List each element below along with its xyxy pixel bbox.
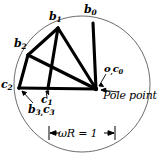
label-b3-c3: b3,c3: [28, 104, 54, 115]
dim-arrow-left: [50, 131, 56, 136]
label-b0: b0: [84, 4, 97, 15]
joint-pole: [94, 87, 98, 91]
leader-o-c0-arrowhead: [99, 83, 104, 87]
label-b2: b2: [14, 38, 27, 49]
bar-b0-pole: [93, 23, 96, 89]
joint-c2: [17, 86, 20, 89]
label-dimension-omega-r: ωR = 1: [58, 128, 97, 139]
linkage-bars: [19, 23, 96, 89]
kinematic-pole-point-diagram: b0 b1 b2 c2 c1 b3,c3 o,c0 Pole point ωR …: [0, 0, 163, 167]
diagram-canvas: [0, 0, 163, 167]
bar-b2-c2: [19, 55, 28, 88]
label-o-c0: o,c0: [104, 64, 123, 74]
label-b1: b1: [49, 11, 62, 22]
label-pole-point: Pole point: [103, 90, 157, 101]
label-c2: c2: [1, 79, 13, 90]
dim-arrow-right: [108, 131, 114, 136]
joint-c1: [46, 86, 49, 89]
bar-c2-pole: [19, 88, 96, 89]
